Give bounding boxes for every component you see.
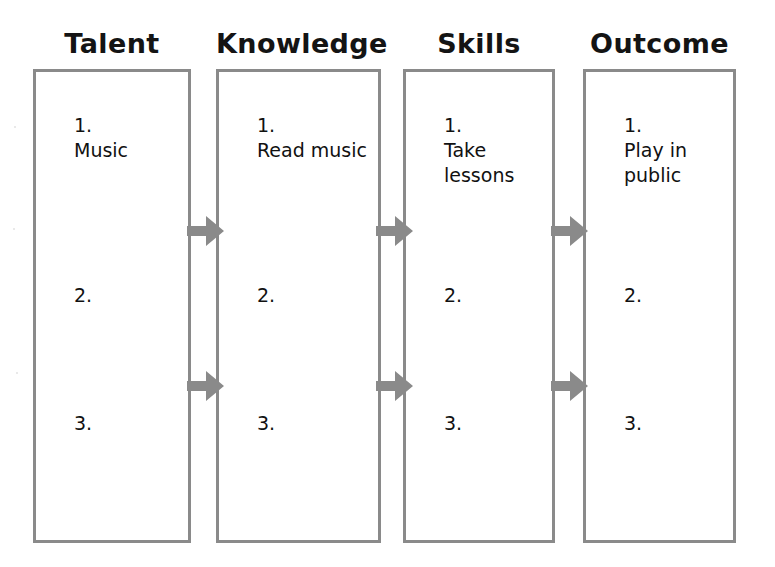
item-number: 2. — [74, 284, 92, 306]
list-item[interactable]: 2. — [600, 258, 725, 333]
scan-artifact — [13, 228, 15, 230]
item-text: Play in public — [624, 139, 687, 186]
list-item[interactable]: 2. — [420, 258, 544, 333]
item-number: 3. — [444, 412, 462, 434]
right-arrow-icon — [551, 367, 589, 405]
column-header-talent: Talent — [33, 26, 191, 62]
right-arrow-icon — [376, 212, 414, 250]
column-header-skills: Skills — [403, 26, 555, 62]
item-text: Read music — [257, 139, 367, 161]
column-box-talent[interactable]: 1. Music 2. 3. — [33, 69, 191, 543]
column-box-skills[interactable]: 1. Take lessons 2. 3. — [403, 69, 555, 543]
list-item[interactable]: 3. — [233, 386, 370, 461]
item-text: Music — [74, 139, 128, 161]
item-number: 2. — [444, 284, 462, 306]
list-item[interactable]: 3. — [50, 386, 180, 461]
item-number: 1. — [257, 114, 275, 136]
right-arrow-icon — [376, 367, 414, 405]
right-arrow-icon — [551, 212, 589, 250]
list-item[interactable]: 1. Take lessons — [420, 88, 512, 188]
flow-diagram: Talent Knowledge Skills Outcome 1. Music… — [0, 0, 775, 567]
scan-artifact — [14, 126, 16, 128]
item-number: 3. — [257, 412, 275, 434]
list-item[interactable]: 3. — [420, 386, 544, 461]
item-text: Take lessons — [444, 139, 514, 186]
right-arrow-icon — [187, 367, 225, 405]
list-item[interactable]: 2. — [233, 258, 370, 333]
column-box-outcome[interactable]: 1. Play in public 2. 3. — [583, 69, 736, 543]
right-arrow-icon — [187, 212, 225, 250]
item-number: 2. — [257, 284, 275, 306]
item-number: 1. — [74, 114, 92, 136]
item-number: 3. — [74, 412, 92, 434]
column-box-knowledge[interactable]: 1. Read music 2. 3. — [216, 69, 381, 543]
item-number: 1. — [444, 114, 462, 136]
column-header-outcome: Outcome — [583, 26, 736, 62]
item-number: 2. — [624, 284, 642, 306]
column-header-knowledge: Knowledge — [216, 26, 381, 62]
list-item[interactable]: 1. Music — [50, 88, 180, 163]
item-number: 1. — [624, 114, 642, 136]
list-item[interactable]: 3. — [600, 386, 725, 461]
list-item[interactable]: 2. — [50, 258, 180, 333]
list-item[interactable]: 1. Read music — [233, 88, 370, 163]
scan-artifact — [16, 372, 18, 374]
list-item[interactable]: 1. Play in public — [600, 88, 697, 188]
item-number: 3. — [624, 412, 642, 434]
